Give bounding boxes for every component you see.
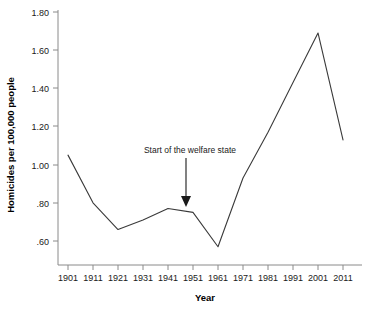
x-tick-label: 1961 bbox=[208, 273, 228, 283]
x-tick-label: 1991 bbox=[283, 273, 303, 283]
chart-page: 1.80 1.60 1.40 1.20 1.00 .80 .60 1901 bbox=[0, 0, 370, 314]
x-tick-label: 1921 bbox=[108, 273, 128, 283]
x-tick-label: 2011 bbox=[333, 273, 352, 283]
x-tick-label: 1901 bbox=[58, 273, 78, 283]
x-axis-tick-labels: 1901 1911 1921 1931 1941 1951 1961 1971 … bbox=[58, 273, 353, 283]
y-axis-ticks bbox=[53, 12, 58, 241]
arrow-down-icon bbox=[181, 196, 191, 207]
homicide-rate-line-chart: 1.80 1.60 1.40 1.20 1.00 .80 .60 1901 bbox=[0, 0, 370, 314]
y-tick-label: 1.40 bbox=[31, 84, 49, 94]
y-tick-label: 1.80 bbox=[31, 8, 49, 18]
y-tick-label: 1.60 bbox=[31, 46, 49, 56]
x-tick-label: 1981 bbox=[258, 273, 278, 283]
annotation-label: Start of the welfare state bbox=[144, 145, 236, 155]
x-tick-label: 1941 bbox=[158, 273, 178, 283]
y-axis-tick-labels: 1.80 1.60 1.40 1.20 1.00 .80 .60 bbox=[31, 8, 49, 247]
y-tick-label: 1.20 bbox=[31, 122, 49, 132]
y-tick-label: .80 bbox=[36, 199, 49, 209]
y-tick-label: .60 bbox=[36, 237, 49, 247]
x-tick-label: 1971 bbox=[233, 273, 253, 283]
y-tick-label: 1.00 bbox=[31, 161, 49, 171]
x-tick-label: 1911 bbox=[83, 273, 102, 283]
y-axis-title: Homicides per 100,000 people bbox=[5, 77, 16, 213]
x-tick-label: 1931 bbox=[133, 273, 153, 283]
welfare-state-annotation: Start of the welfare state bbox=[144, 145, 236, 207]
data-line-series bbox=[68, 33, 343, 247]
x-tick-label: 1951 bbox=[183, 273, 203, 283]
x-tick-label: 2001 bbox=[308, 273, 328, 283]
x-axis-ticks bbox=[68, 265, 343, 270]
x-axis-title: Year bbox=[195, 292, 215, 303]
